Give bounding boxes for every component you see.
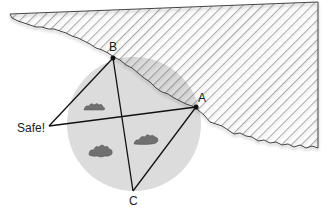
point-a — [194, 105, 199, 110]
label-a: A — [198, 91, 206, 105]
label-safe: Safe! — [17, 121, 45, 135]
triangulation-diagram: B A C Safe! — [0, 0, 329, 215]
point-b — [111, 56, 116, 61]
label-c: C — [129, 194, 138, 208]
label-b: B — [109, 40, 117, 54]
